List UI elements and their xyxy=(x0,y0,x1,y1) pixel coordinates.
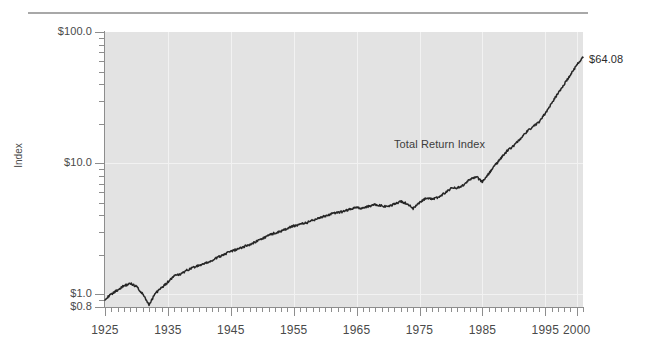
x-axis-label: 1935 xyxy=(133,320,203,335)
x-axis-tick-major xyxy=(105,307,106,316)
x-axis-label: 1945 xyxy=(196,320,266,335)
x-axis-label: 1925 xyxy=(70,320,140,335)
x-axis-tick-minor xyxy=(111,307,112,312)
y-axis-title: Index xyxy=(13,121,24,191)
x-axis-tick-major xyxy=(577,307,578,316)
x-axis-tick-minor xyxy=(306,307,307,312)
x-axis-tick-minor xyxy=(143,307,144,312)
x-axis-label: 1955 xyxy=(259,320,329,335)
y-axis-label: $100.0 xyxy=(0,25,92,38)
x-axis-tick-minor xyxy=(526,307,527,312)
x-axis-tick-minor xyxy=(174,307,175,312)
x-axis-label: 2000 xyxy=(542,320,612,335)
x-axis-tick-minor xyxy=(237,307,238,312)
x-axis-tick-minor xyxy=(401,307,402,312)
x-axis-tick-minor xyxy=(495,307,496,312)
x-axis-label: 1975 xyxy=(385,320,455,335)
x-axis-tick-minor xyxy=(212,307,213,312)
x-axis-tick-minor xyxy=(426,307,427,312)
x-axis-tick-minor xyxy=(281,307,282,312)
x-axis-tick-minor xyxy=(564,307,565,312)
x-axis-label-text: 1965 xyxy=(343,323,371,337)
y-axis-label-text: $1.0 xyxy=(70,287,92,299)
x-axis-tick-minor xyxy=(162,307,163,312)
x-axis-tick-major xyxy=(357,307,358,316)
y-axis-label: $0.8 xyxy=(0,300,92,313)
x-axis-tick-major xyxy=(294,307,295,316)
x-axis-label-text: 2000 xyxy=(563,323,591,337)
x-axis-tick-minor xyxy=(250,307,251,312)
x-axis-tick-minor xyxy=(193,307,194,312)
x-axis-tick-minor xyxy=(451,307,452,312)
x-axis-tick-minor xyxy=(256,307,257,312)
x-axis-tick-minor xyxy=(243,307,244,312)
y-axis-label: $1.0 xyxy=(0,287,92,300)
x-axis-tick-minor xyxy=(331,307,332,312)
x-axis-label-text: 1935 xyxy=(154,323,182,337)
x-axis-tick-minor xyxy=(124,307,125,312)
x-axis-tick-minor xyxy=(199,307,200,312)
x-axis-tick-minor xyxy=(432,307,433,312)
x-axis-tick-minor xyxy=(388,307,389,312)
x-axis-tick-minor xyxy=(275,307,276,312)
y-axis-tick-major xyxy=(95,307,105,308)
x-axis-tick-major xyxy=(482,307,483,316)
x-axis-tick-minor xyxy=(539,307,540,312)
x-axis-tick-minor xyxy=(338,307,339,312)
x-axis-tick-minor xyxy=(413,307,414,312)
x-axis-tick-minor xyxy=(155,307,156,312)
x-axis-tick-minor xyxy=(394,307,395,312)
x-axis-tick-minor xyxy=(313,307,314,312)
data-series-layer xyxy=(105,32,583,307)
x-axis-tick-minor xyxy=(363,307,364,312)
x-axis-tick-minor xyxy=(325,307,326,312)
x-axis-tick-minor xyxy=(350,307,351,312)
y-axis-label-text: $10.0 xyxy=(64,156,92,168)
x-axis-tick-minor xyxy=(558,307,559,312)
x-axis-label: 1965 xyxy=(322,320,392,335)
x-axis-tick-minor xyxy=(501,307,502,312)
x-axis-label-text: 1985 xyxy=(469,323,497,337)
x-axis-label-text: 1975 xyxy=(406,323,434,337)
x-axis-tick-minor xyxy=(570,307,571,312)
x-axis-tick-minor xyxy=(206,307,207,312)
x-axis-tick-minor xyxy=(262,307,263,312)
annotation-final-value: $64.08 xyxy=(589,53,623,65)
x-axis-tick-minor xyxy=(520,307,521,312)
x-axis-tick-minor xyxy=(118,307,119,312)
x-axis-tick-minor xyxy=(130,307,131,312)
x-axis-tick-minor xyxy=(344,307,345,312)
x-axis-label-text: 1945 xyxy=(217,323,245,337)
x-axis-tick-minor xyxy=(508,307,509,312)
top-rule-divider xyxy=(28,12,588,14)
y-axis-tick-major xyxy=(95,163,105,164)
x-axis-tick-minor xyxy=(514,307,515,312)
x-axis-tick-minor xyxy=(489,307,490,312)
x-axis-tick-minor xyxy=(470,307,471,312)
x-axis-tick-minor xyxy=(181,307,182,312)
x-axis-tick-minor xyxy=(382,307,383,312)
x-axis-tick-major xyxy=(545,307,546,316)
x-axis-tick-minor xyxy=(187,307,188,312)
x-axis-label-text: 1955 xyxy=(280,323,308,337)
x-axis-tick-minor xyxy=(407,307,408,312)
x-axis-tick-minor xyxy=(269,307,270,312)
x-axis-tick-minor xyxy=(319,307,320,312)
x-axis-tick-minor xyxy=(476,307,477,312)
y-axis-label-text: $100.0 xyxy=(58,25,92,37)
x-axis-tick-minor xyxy=(464,307,465,312)
x-axis-tick-minor xyxy=(438,307,439,312)
x-axis-tick-minor xyxy=(225,307,226,312)
y-axis-tick-major xyxy=(95,294,105,295)
x-axis-tick-minor xyxy=(149,307,150,312)
x-axis-tick-minor xyxy=(375,307,376,312)
x-axis-tick-minor xyxy=(218,307,219,312)
x-axis-label: 1985 xyxy=(447,320,517,335)
x-axis-tick-major xyxy=(168,307,169,316)
x-axis-tick-minor xyxy=(457,307,458,312)
x-axis-tick-minor xyxy=(287,307,288,312)
y-axis-tick-major xyxy=(95,32,105,33)
series-line-total-return-index xyxy=(105,57,583,306)
x-axis-tick-minor xyxy=(552,307,553,312)
x-axis-tick-minor xyxy=(300,307,301,312)
